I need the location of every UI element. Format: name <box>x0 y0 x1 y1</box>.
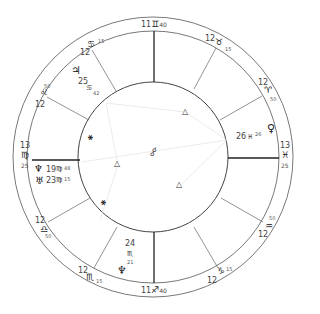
gemini-icon: ♊ <box>151 19 159 29</box>
quincunx-icon: ⚹ <box>101 199 106 207</box>
leo-icon: ♌ <box>40 88 48 97</box>
venus-deg: 26 <box>236 133 246 141</box>
virgo-icon: ♍ <box>21 151 29 160</box>
cusp-line-5 <box>194 227 218 268</box>
asc-min: 25 <box>21 163 29 168</box>
cusp-line-9 <box>194 48 216 89</box>
dsc-min: 25 <box>281 163 289 168</box>
uranus-deg: 23 <box>46 177 56 185</box>
cusp-6-min: 50 <box>269 216 275 221</box>
venus-icon: ♀ <box>267 124 275 133</box>
jupiter-icon: ♃ <box>71 66 81 75</box>
venus-min: 26 <box>255 132 261 137</box>
neptune-deg: 19 <box>46 166 56 174</box>
dsc-deg: 13 <box>280 142 290 150</box>
cusp-8-min: 50 <box>270 97 276 102</box>
mc-label: 11♊40 <box>141 20 167 29</box>
pisces-icon: ♓ <box>281 151 289 160</box>
trine-icon: △ <box>182 108 188 116</box>
cusp-line-6 <box>221 198 263 222</box>
cusp-11-min: 15 <box>98 39 104 44</box>
cusp-line-11 <box>92 50 116 91</box>
taurus-icon: ♉ <box>215 38 223 47</box>
asc-deg: 13 <box>20 142 30 150</box>
uranus-min: 15 <box>64 177 70 182</box>
jupiter-sign-icon: ♋ <box>86 84 92 93</box>
aries-icon: ♈ <box>264 86 272 95</box>
capricorn-icon: ♑ <box>217 267 225 276</box>
pluto-min: 21 <box>127 260 133 265</box>
cusp-line-8 <box>220 96 262 120</box>
cusp-9-deg: 12 <box>205 35 215 43</box>
venus-sign-icon: ♓ <box>247 133 253 142</box>
cusp-line-3 <box>94 227 117 268</box>
quincunx-icon: ⚹ <box>88 134 93 142</box>
trine-icon: △ <box>176 181 182 189</box>
aquarius-icon: ♒ <box>265 222 273 231</box>
pluto-sign-icon: ♏ <box>127 250 133 259</box>
neptune-icon: ♆ <box>34 164 43 173</box>
cusp-3-min: 15 <box>96 279 102 284</box>
cusp-12-min: 50 <box>44 84 50 89</box>
cusp-5-deg: 12 <box>207 277 217 285</box>
pluto-icon: ♆ <box>117 266 127 275</box>
cusp-5-min: 15 <box>226 267 232 272</box>
sagittarius-icon: ♐ <box>151 285 159 295</box>
jupiter-min: 42 <box>93 91 99 96</box>
uranus-icon: ♅ <box>35 176 44 185</box>
neptune-sign-icon: ♍ <box>56 165 62 174</box>
scorpio-icon: ♏ <box>86 273 94 282</box>
pluto-deg: 24 <box>125 240 135 248</box>
cusp-6-deg: 12 <box>258 231 268 239</box>
trine-icon: △ <box>114 160 120 168</box>
neptune-min: 48 <box>64 166 70 171</box>
cusp-line-12 <box>47 97 89 120</box>
cusp-9-min: 15 <box>225 47 231 52</box>
cusp-12-deg: 12 <box>35 101 45 109</box>
cusp-line-2 <box>48 198 90 222</box>
cancer-icon: ♋ <box>87 40 95 49</box>
ic-label: 11♐40 <box>141 286 167 295</box>
cusp-2-min: 50 <box>45 234 51 239</box>
uranus-sign-icon: ♍ <box>56 176 62 185</box>
conjunction-icon: ☌ <box>152 146 157 154</box>
cusp-11-deg: 12 <box>80 49 90 57</box>
